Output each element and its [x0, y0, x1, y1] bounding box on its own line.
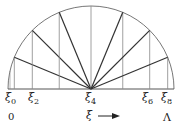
arrow-right-icon	[98, 112, 120, 120]
label-axis-variable: ξ	[86, 110, 92, 121]
label-xi4: ξ4	[85, 92, 96, 106]
label-end-lambda: Λ	[163, 112, 171, 123]
radial-line	[32, 30, 91, 89]
label-xi2: ξ2	[28, 92, 39, 106]
label-xi6: ξ6	[142, 92, 153, 106]
label-start-zero: 0	[8, 112, 14, 122]
label-xi0: ξ0	[5, 92, 16, 106]
radial-line	[91, 30, 150, 89]
label-xi8: ξ8	[161, 92, 172, 106]
